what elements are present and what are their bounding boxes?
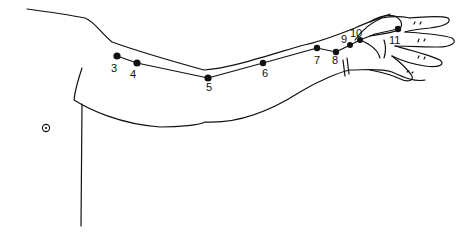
point-label-7: 7 (314, 55, 320, 66)
circled-dot-marker (42, 124, 49, 131)
arm-diagram: 3 4 5 6 7 8 9 10 11 (0, 0, 476, 248)
point-label-5: 5 (206, 82, 212, 93)
point-label-6: 6 (262, 68, 268, 79)
point-label-3: 3 (111, 63, 117, 74)
point-label-11: 11 (389, 35, 400, 46)
point-label-8: 8 (332, 55, 338, 66)
arm-outline (0, 0, 476, 248)
point-label-9: 9 (341, 34, 347, 45)
point-label-10: 10 (350, 28, 362, 39)
point-label-4: 4 (130, 69, 136, 80)
